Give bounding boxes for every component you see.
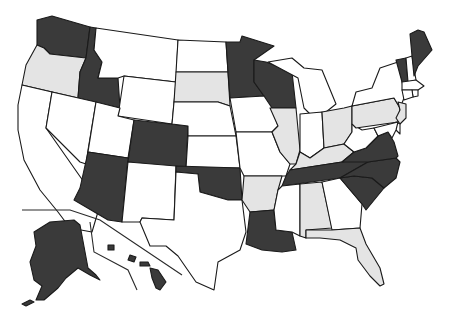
state-sd[interactable] bbox=[174, 72, 230, 106]
state-me[interactable] bbox=[410, 30, 432, 76]
state-ny[interactable] bbox=[352, 62, 404, 108]
state-co[interactable] bbox=[128, 120, 188, 168]
state-fl[interactable] bbox=[306, 228, 384, 286]
state-nd[interactable] bbox=[176, 40, 228, 72]
aleutian-islands bbox=[22, 300, 34, 306]
state-ct[interactable] bbox=[402, 90, 413, 100]
state-hi[interactable] bbox=[108, 245, 166, 290]
state-ks[interactable] bbox=[186, 136, 240, 168]
us-map bbox=[0, 0, 460, 321]
state-mt[interactable] bbox=[94, 28, 178, 82]
state-ms[interactable] bbox=[274, 184, 300, 236]
state-ma[interactable] bbox=[402, 80, 424, 90]
state-nm[interactable] bbox=[122, 162, 176, 222]
state-wy[interactable] bbox=[118, 76, 176, 124]
